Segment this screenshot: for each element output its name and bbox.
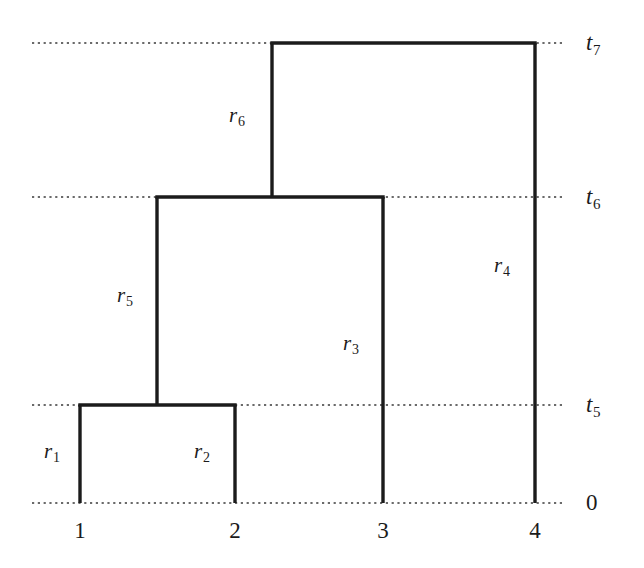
branch-label-r2: r2 [194,441,210,465]
branch-label-r5: r5 [117,285,133,309]
time-axis-label-zero: 0 [586,491,598,514]
tip-label-4: 4 [529,519,541,542]
tip-label-2: 2 [229,519,241,542]
tree-branches [78,43,536,503]
branch-label-r4: r4 [494,255,510,279]
branch-label-r6: r6 [229,105,245,129]
dotted-time-guides [32,43,565,503]
tree-graphic [0,0,644,568]
tip-label-1: 1 [74,519,86,542]
branch-label-r3: r3 [343,333,359,357]
branch-label-r1: r1 [44,441,60,465]
tip-label-3: 3 [377,519,389,542]
time-axis-label-t6: t6 [586,185,600,212]
coalescent-tree-figure: r1 r2 r3 r4 r5 r6 t7 t6 t5 0 1 2 3 4 [0,0,644,568]
time-axis-label-t7: t7 [586,31,600,58]
time-axis-label-t5: t5 [586,393,600,420]
